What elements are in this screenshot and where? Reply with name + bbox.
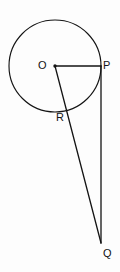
geometry-canvas xyxy=(0,0,120,272)
vertex-label-Q: Q xyxy=(103,248,112,259)
vertex-dot-O xyxy=(53,64,56,67)
geometry-diagram: O P R Q xyxy=(0,0,120,272)
vertex-label-R: R xyxy=(56,112,64,123)
segment-OQ-secant xyxy=(55,66,101,243)
vertex-label-P: P xyxy=(103,60,110,71)
vertex-label-O: O xyxy=(38,60,47,71)
